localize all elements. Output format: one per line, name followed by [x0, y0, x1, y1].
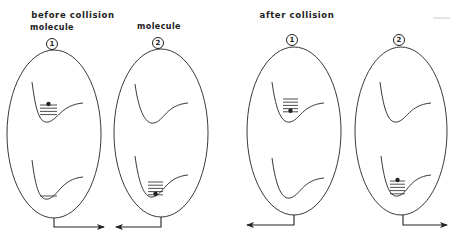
before-molecule-1-number-badge: 1 — [46, 38, 58, 50]
before-molecule-1-potential-well-lower-curve — [32, 160, 83, 199]
before-molecule-2-momentum-arrow-left — [116, 217, 161, 227]
before-molecule-1-label: molecule — [30, 23, 74, 32]
after-molecule-1-potential-well-upper-state-dot — [288, 109, 292, 113]
after-molecule-1-momentum-arrow-left — [247, 215, 294, 225]
before-molecule-1-momentum-arrow-right — [54, 218, 104, 227]
before-molecule-1-ellipse — [7, 50, 101, 218]
before-molecule-2-potential-well-upper-curve — [135, 84, 188, 123]
collision-diagram — [0, 0, 455, 232]
after-molecule-2-potential-well-upper-curve — [380, 82, 431, 122]
panel-title-before: before collision — [31, 10, 114, 20]
after-molecule-2-potential-well-lower-state-dot — [395, 178, 399, 182]
after-molecule-1-ellipse — [247, 47, 341, 215]
after-molecule-1-potential-well-lower-curve — [272, 158, 324, 198]
before-molecule-1-potential-well-upper-curve — [32, 82, 83, 122]
after-molecule-1-number-badge: 1 — [286, 34, 298, 46]
after-molecule-2-momentum-arrow-right — [403, 215, 447, 225]
after-molecule-2-number-badge: 2 — [393, 34, 405, 46]
before-molecule-2-potential-well-lower-curve — [135, 156, 188, 197]
before-molecule-2-potential-well-lower-state-dot — [153, 192, 157, 196]
panel-title-after: after collision — [260, 10, 335, 20]
before-molecule-1-potential-well-upper-state-dot — [46, 102, 50, 106]
after-molecule-2-ellipse — [355, 47, 447, 215]
before-molecule-2-number-badge: 2 — [152, 37, 164, 49]
before-molecule-2-label: molecule — [137, 22, 181, 31]
after-molecule-2-potential-well-lower-curve — [381, 156, 431, 196]
